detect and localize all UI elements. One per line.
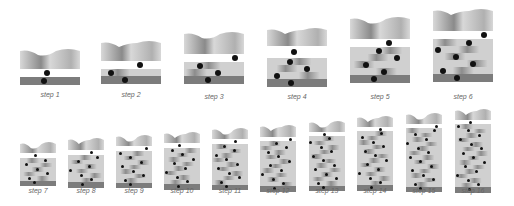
- particle: [287, 59, 293, 65]
- particle: [483, 161, 486, 164]
- particle: [232, 55, 238, 61]
- particle: [453, 54, 459, 60]
- particle: [381, 69, 387, 75]
- particle: [376, 48, 382, 54]
- particle: [90, 151, 93, 154]
- surface-profile-icon: [20, 140, 56, 153]
- particle: [44, 159, 47, 162]
- particle: [275, 142, 278, 145]
- particle: [215, 154, 218, 157]
- particle: [462, 152, 465, 155]
- particle: [394, 55, 400, 61]
- particle: [145, 147, 148, 150]
- particle: [291, 49, 297, 55]
- particle: [36, 168, 39, 171]
- particle: [272, 178, 275, 181]
- particle: [457, 125, 460, 128]
- surface-profile-icon: [267, 26, 327, 46]
- particle: [417, 147, 420, 150]
- step-label: step 16: [455, 187, 491, 194]
- particle: [435, 47, 441, 53]
- particle: [435, 125, 438, 128]
- step-label: step 8: [68, 187, 104, 194]
- base-layer: [267, 79, 327, 87]
- particle: [320, 146, 323, 149]
- deposited-layer: [433, 39, 493, 46]
- particle: [377, 168, 380, 171]
- particle: [267, 151, 270, 154]
- particle: [422, 174, 425, 177]
- particle: [325, 173, 328, 176]
- particle: [312, 155, 315, 158]
- particle: [317, 182, 320, 185]
- step-label: step 5: [350, 93, 410, 100]
- deposited-layer: [433, 60, 493, 67]
- particle: [470, 61, 476, 67]
- particle: [228, 172, 231, 175]
- particle: [369, 177, 372, 180]
- surface-profile-icon: [309, 119, 345, 132]
- base-layer: [20, 77, 80, 85]
- base-layer: [184, 76, 244, 84]
- surface-profile-icon: [433, 7, 493, 31]
- particle: [478, 134, 481, 137]
- deposited-layer: [350, 54, 410, 61]
- step-label: step 9: [116, 187, 152, 194]
- particle: [433, 129, 436, 132]
- surface-profile-icon: [406, 111, 442, 124]
- step-label: step 11: [212, 187, 248, 194]
- particle: [171, 149, 174, 152]
- deposited-layer: [350, 61, 410, 68]
- step-label: step 15: [406, 187, 442, 194]
- surface-profile-icon: [184, 30, 244, 54]
- particle: [454, 75, 460, 81]
- particle: [467, 179, 470, 182]
- particle: [28, 177, 31, 180]
- base-layer: [101, 76, 161, 84]
- particle: [192, 158, 195, 161]
- particle: [234, 140, 237, 143]
- particle: [380, 132, 383, 135]
- particle: [470, 143, 473, 146]
- particle: [385, 159, 388, 162]
- deposited-layer: [267, 65, 327, 72]
- particle: [386, 40, 392, 46]
- particle: [178, 144, 181, 147]
- particle: [205, 77, 211, 83]
- particle: [34, 154, 37, 157]
- particle: [425, 138, 428, 141]
- particle: [289, 138, 292, 141]
- particle: [414, 183, 417, 186]
- step-label: step 13: [309, 187, 345, 194]
- step-label: step 12: [260, 187, 296, 194]
- particle: [41, 78, 47, 84]
- particle: [430, 165, 433, 168]
- particle: [44, 70, 50, 76]
- particle: [481, 32, 487, 38]
- particle: [280, 169, 283, 172]
- particle: [409, 156, 412, 159]
- base-layer: [433, 74, 493, 82]
- particle: [108, 70, 114, 76]
- deposited-layer: [184, 62, 244, 69]
- deposited-layer: [433, 46, 493, 53]
- surface-profile-icon: [68, 136, 104, 150]
- particle: [119, 152, 122, 155]
- particle: [215, 70, 221, 76]
- particle: [466, 40, 472, 46]
- particle: [33, 181, 36, 184]
- surface-profile-icon: [350, 15, 410, 39]
- surface-profile-icon: [116, 133, 152, 146]
- particle: [137, 62, 143, 68]
- particle: [363, 62, 369, 68]
- particle: [80, 174, 83, 177]
- particle: [124, 179, 127, 182]
- step-label: step 14: [357, 187, 393, 194]
- particle: [364, 150, 367, 153]
- particle: [372, 141, 375, 144]
- particle: [304, 66, 310, 72]
- surface-profile-icon: [357, 114, 393, 127]
- base-layer: [20, 181, 56, 187]
- particle: [440, 68, 446, 74]
- surface-profile-icon: [212, 126, 248, 139]
